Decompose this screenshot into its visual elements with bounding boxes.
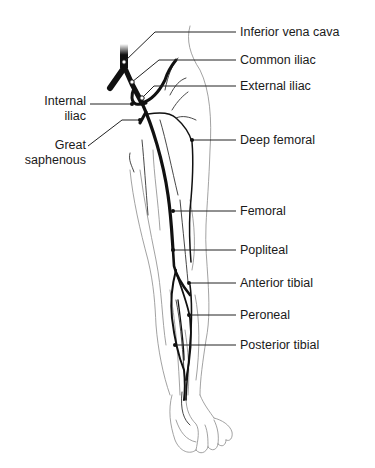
- label-external-iliac: External iliac: [240, 79, 311, 94]
- external-iliac-vessel: [142, 60, 176, 103]
- label-posterior-tibial: Posterior tibial: [240, 338, 319, 353]
- label-popliteal: Popliteal: [240, 243, 288, 258]
- leader-lines: [88, 32, 236, 345]
- label-peroneal: Peroneal: [240, 308, 290, 323]
- lower-limb-vein-diagram: [0, 0, 375, 468]
- femoral-vessel: [142, 103, 173, 250]
- label-deep-femoral: Deep femoral: [240, 133, 315, 148]
- label-internal-iliac-line2: iliac: [30, 109, 86, 124]
- label-great-saphenous-line2: saphenous: [10, 153, 86, 168]
- label-anterior-tibial: Anterior tibial: [240, 276, 313, 291]
- label-inferior-vena-cava: Inferior vena cava: [240, 25, 339, 40]
- label-femoral: Femoral: [240, 204, 286, 219]
- label-internal-iliac-line1: Internal: [30, 94, 86, 109]
- leg-outline: [130, 26, 232, 453]
- label-internal-iliac: Internal iliac: [30, 94, 86, 124]
- label-great-saphenous: Great saphenous: [10, 138, 86, 168]
- label-great-saphenous-line1: Great: [10, 138, 86, 153]
- label-common-iliac: Common iliac: [240, 53, 316, 68]
- left-common-iliac-vessel: [110, 68, 124, 88]
